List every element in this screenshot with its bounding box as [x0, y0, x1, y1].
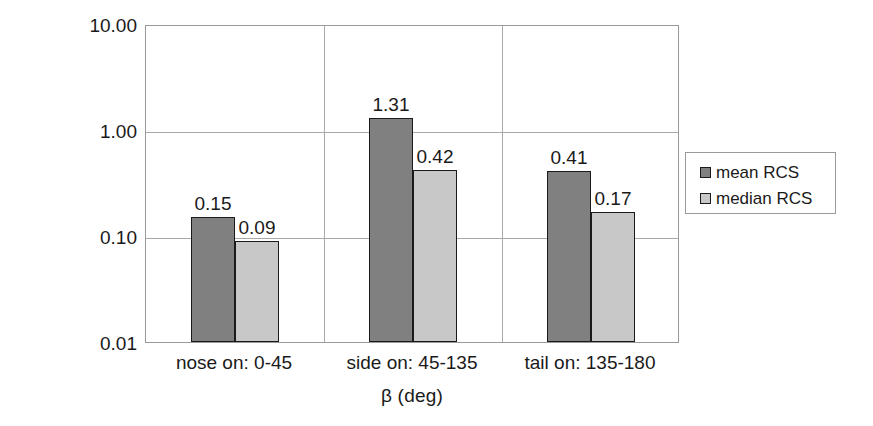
x-axis-tick-labels: nose on: 0-45side on: 45-135tail on: 135…	[145, 352, 679, 380]
chart-legend: mean RCSmedian RCS	[685, 152, 836, 214]
gridline-vertical	[324, 26, 325, 342]
x-axis-tick-label: tail on: 135-180	[501, 352, 679, 374]
x-axis-tick-label: side on: 45-135	[323, 352, 501, 374]
gridline-vertical	[502, 26, 503, 342]
y-axis-title: RCS (m2)	[14, 0, 60, 92]
bar-value-label: 0.09	[227, 218, 287, 237]
legend-item-label: median RCS	[716, 190, 812, 207]
y-axis-tick-label: 10.00	[55, 16, 137, 35]
bar-value-label: 0.15	[183, 194, 243, 213]
plot-area: 0.150.091.310.420.410.17	[145, 25, 679, 343]
legend-item-label: mean RCS	[716, 164, 799, 181]
legend-swatch-icon	[700, 167, 711, 178]
bar-value-label: 1.31	[361, 95, 421, 114]
y-axis-tick-labels: 10.001.000.100.01	[55, 0, 137, 426]
y-axis-tick-label: 0.01	[55, 334, 137, 353]
bar-median-rcs-2	[591, 212, 635, 342]
legend-item[interactable]: mean RCS	[700, 160, 835, 184]
bar-value-label: 0.41	[539, 148, 599, 167]
chart-figure: RCS (m2) 10.001.000.100.01 0.150.091.310…	[0, 0, 873, 426]
bar-value-label: 0.42	[405, 147, 465, 166]
y-axis-tick-label: 1.00	[55, 122, 137, 141]
bar-value-label: 0.17	[583, 189, 643, 208]
bar-median-rcs-0	[235, 241, 279, 342]
x-axis-title: β (deg)	[145, 385, 679, 407]
legend-swatch-icon	[700, 193, 711, 204]
x-axis-tick-label: nose on: 0-45	[145, 352, 323, 374]
y-axis-tick-label: 0.10	[55, 228, 137, 247]
legend-item[interactable]: median RCS	[700, 186, 835, 210]
bar-median-rcs-1	[413, 170, 457, 342]
